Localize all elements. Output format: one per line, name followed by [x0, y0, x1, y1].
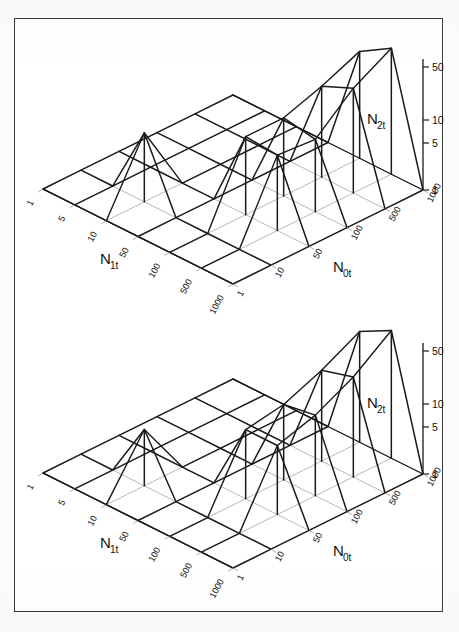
svg-text:0t: 0t [343, 268, 352, 279]
surface-plot-bottom: 1510501510501005001000110501005001000N1t… [15, 315, 444, 611]
y-tick-label: 1 [235, 289, 246, 298]
z-tick-label: 50 [432, 345, 444, 357]
y-tick-label: 100 [349, 224, 365, 242]
y-tick-label: 500 [387, 489, 403, 507]
surface-crossline-top-col6 [233, 190, 423, 284]
x-ticklabels-bottom: 1510501005001000 [25, 473, 233, 600]
surface-crossline-top-col4 [170, 51, 360, 252]
surface-profile-bottom-row4 [195, 370, 385, 493]
x-axis-title: N1t [100, 250, 119, 271]
x-tick-label: 100 [147, 262, 163, 280]
z-ticklabels-bottom: 151050 [423, 345, 444, 480]
svg-text:1t: 1t [110, 544, 119, 555]
svg-text:1t: 1t [110, 260, 119, 271]
y-ticklabels-top: 110501005001000 [233, 182, 443, 298]
x-tick-label: 1 [25, 198, 36, 207]
surface-crossline-top-col0 [43, 95, 233, 189]
chart-top: 1510501510501005001000110501005001000N1t… [15, 19, 444, 315]
surface-crossline-bottom-col6 [233, 474, 423, 568]
x-ticklabels-top: 1510501005001000 [25, 189, 233, 315]
y-tick-label: 500 [387, 205, 403, 223]
surface-crossline-bottom-col1 [75, 395, 265, 489]
x-tick-label: 500 [178, 277, 194, 295]
x-axis-title: N1t [100, 534, 119, 555]
svg-text:2t: 2t [377, 404, 386, 415]
x-tick-label: 1000 [208, 577, 226, 599]
z-tick-label: 10 [432, 114, 444, 126]
x-tick-label: 100 [147, 546, 163, 564]
z-ticklabels-top: 151050 [423, 61, 444, 196]
y-axis-title: N0t [333, 258, 352, 279]
svg-text:2t: 2t [377, 120, 386, 131]
x-tick-label: 10 [86, 514, 100, 528]
x-tick-label: 1000 [208, 293, 226, 315]
chart-bottom: 1510501510501005001000110501005001000N1t… [15, 315, 444, 611]
surface-mesh-bottom [43, 331, 423, 569]
x-tick-label: 500 [178, 561, 194, 579]
y-tick-label: 1 [235, 573, 246, 582]
surface-crossline-bottom-col0 [43, 379, 233, 473]
x-tick-label: 10 [86, 230, 100, 244]
x-tick-label: 50 [117, 530, 131, 544]
surface-crossline-bottom-col5 [201, 331, 391, 553]
surface-crossline-bottom-col4 [170, 331, 360, 536]
z-tick-label: 5 [432, 137, 438, 149]
surface-crossline-top-col3 [138, 143, 328, 237]
svg-text:0t: 0t [343, 552, 352, 563]
figure-page: 1510501510501005001000110501005001000N1t… [0, 0, 459, 632]
figure-frame: 1510501510501005001000110501005001000N1t… [14, 18, 443, 612]
surface-profile-top-row5 [233, 48, 423, 190]
x-tick-label: 5 [56, 214, 67, 223]
x-tick-label: 50 [117, 246, 131, 260]
y-tick-label: 100 [349, 508, 365, 526]
z-tick-label: 50 [432, 61, 444, 73]
surface-crossline-top-col1 [75, 111, 265, 205]
surface-plot-top: 1510501510501005001000110501005001000N1t… [15, 19, 444, 315]
surface-profile-bottom-row1 [81, 430, 271, 550]
surface-mesh-top [43, 48, 423, 284]
z-axis-title: N2t [367, 394, 386, 415]
x-tick-label: 5 [56, 498, 67, 507]
z-axis-title: N2t [367, 110, 386, 131]
surface-profile-top-row2 [119, 137, 309, 247]
z-tick-label: 5 [432, 421, 438, 433]
x-tick-label: 1 [25, 482, 36, 491]
z-tick-label: 10 [432, 398, 444, 410]
y-axis-title: N0t [333, 542, 352, 563]
